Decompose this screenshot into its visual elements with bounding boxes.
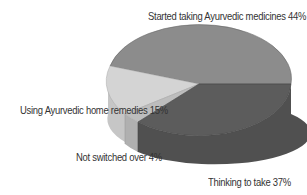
label-home-remedies: Using Ayurvedic home remedies 15% [20,104,168,116]
pie-top [106,25,291,136]
label-started: Started taking Ayurvedic medicines 44% [148,10,306,22]
label-not-switched: Not switched over 4% [76,151,162,163]
pie-chart-graphic [0,0,307,195]
label-thinking: Thinking to take 37% [208,176,291,188]
